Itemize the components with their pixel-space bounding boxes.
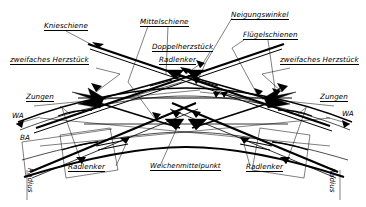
label-zungen-left: Zungen: [26, 93, 54, 102]
label-wa-left: WA: [12, 112, 24, 120]
figure-canvas: Knieschiene Mittelschiene Neigungswinkel…: [0, 0, 366, 207]
label-mittelschiene: Mittelschiene: [140, 18, 189, 27]
leader-mittelschiene: [128, 26, 156, 120]
label-fluegelschienen: Flügelschienen: [243, 31, 298, 40]
leader-zungen-left: [60, 106, 70, 114]
leader-radlenker-bl: [116, 144, 126, 166]
label-zungen-right: Zungen: [320, 93, 348, 102]
railway-switch-diagram: [0, 0, 366, 207]
label-wa-right: WA: [342, 110, 354, 118]
ba-left-dimension: [22, 129, 112, 142]
label-radlenker-bottom-left: Radlenker: [68, 163, 105, 172]
central-lozenge-thin-nw: [100, 82, 182, 106]
label-radius-right: Radius: [328, 168, 336, 193]
leader-knieschiene: [66, 31, 98, 48]
label-weichenmittelpunkt: Weichenmittelpunkt: [150, 163, 221, 171]
label-radlenker-top: Radlenker: [159, 56, 196, 65]
label-zweifaches-herzstueck-right: zweifaches Herzstück: [280, 56, 359, 65]
label-radius-left: Radius: [26, 168, 34, 193]
label-ba-left: BA: [20, 134, 30, 142]
label-radlenker-bottom-right: Radlenker: [246, 163, 283, 172]
label-doppelherzstueck: Doppelherzstück: [152, 43, 213, 52]
arrowhead-radlenker-br: [240, 137, 250, 144]
label-knieschiene: Knieschiene: [44, 22, 88, 31]
leader-herzstueck-right: [262, 68, 290, 92]
label-zweifaches-herzstueck-left: zweifaches Herzstück: [10, 56, 89, 65]
leader-fluegelschienen: [232, 40, 258, 96]
label-neigungswinkel: Neigungswinkel: [231, 11, 289, 20]
